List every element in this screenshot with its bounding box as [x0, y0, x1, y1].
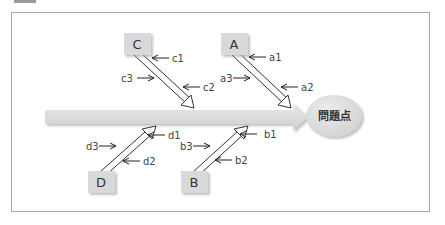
svg-text:c2: c2	[203, 82, 215, 93]
factor-d2: d2	[123, 156, 156, 167]
bone-c	[134, 52, 194, 108]
factor-b3: b3	[180, 141, 210, 152]
svg-text:a1: a1	[269, 52, 282, 63]
bone-b	[193, 126, 248, 175]
fishbone-diagram: 問題点 C A D B c1	[0, 0, 445, 225]
category-label-a: A	[230, 37, 239, 52]
svg-text:b1: b1	[264, 129, 277, 140]
spine-arrow	[45, 103, 308, 131]
svg-text:b3: b3	[180, 141, 193, 152]
problem-label: 問題点	[318, 109, 351, 123]
factor-a1: a1	[249, 52, 282, 63]
factor-b2: b2	[215, 155, 248, 166]
svg-text:c1: c1	[172, 53, 184, 64]
svg-text:c3: c3	[121, 73, 133, 84]
factor-c2: c2	[183, 82, 215, 93]
svg-text:a2: a2	[301, 82, 314, 93]
factor-c3: c3	[121, 73, 154, 84]
bone-a	[232, 52, 291, 108]
svg-text:b2: b2	[235, 155, 248, 166]
svg-text:d2: d2	[143, 156, 156, 167]
factor-c1: c1	[152, 53, 184, 64]
factor-a3: a3	[220, 73, 250, 84]
category-label-d: D	[96, 175, 106, 190]
svg-text:d3: d3	[86, 141, 99, 152]
factor-d3: d3	[86, 141, 116, 152]
category-label-b: B	[190, 175, 199, 190]
factor-a2: a2	[281, 82, 314, 93]
svg-text:d1: d1	[168, 130, 181, 141]
category-label-c: C	[132, 37, 141, 52]
svg-text:a3: a3	[220, 73, 233, 84]
bone-d	[100, 126, 156, 175]
